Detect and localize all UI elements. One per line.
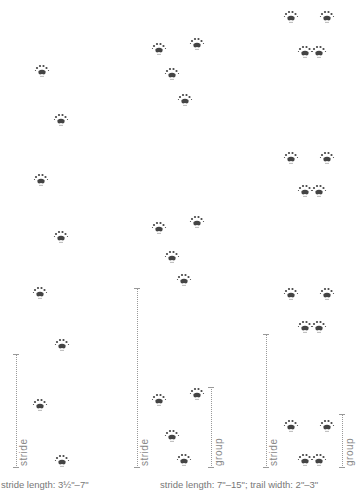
- paw-print-icon: [318, 287, 336, 301]
- group-label: group: [344, 438, 355, 466]
- stride-label: stride: [139, 439, 150, 466]
- paw-print-icon: [150, 221, 168, 235]
- stride-scale: stride: [133, 288, 143, 468]
- caption-right: stride length: 7"–15"; trail width: 2"–3…: [160, 479, 318, 490]
- group-scale: group: [338, 414, 348, 468]
- paw-print-icon: [163, 429, 181, 443]
- scale-cap: [208, 387, 214, 388]
- paw-print-icon: [282, 151, 300, 165]
- scale-cap: [13, 354, 19, 355]
- paw-print-icon: [310, 453, 328, 467]
- paw-print-icon: [175, 453, 193, 467]
- scale-cap: [339, 414, 345, 415]
- paw-print-icon: [310, 320, 328, 334]
- stride-label: stride: [268, 439, 279, 466]
- paw-print-icon: [32, 173, 50, 187]
- paw-print-icon: [318, 10, 336, 24]
- paw-print-icon: [318, 151, 336, 165]
- paw-print-icon: [53, 338, 71, 352]
- scale-cap: [13, 467, 19, 468]
- scale-cap: [134, 288, 140, 289]
- paw-print-icon: [318, 419, 336, 433]
- group-label: group: [213, 438, 224, 466]
- paw-print-icon: [52, 230, 70, 244]
- paw-print-icon: [163, 67, 181, 81]
- paw-print-icon: [188, 37, 206, 51]
- paw-print-icon: [33, 64, 51, 78]
- scale-line: [342, 414, 343, 468]
- paw-print-icon: [31, 398, 49, 412]
- stride-scale: stride: [262, 334, 272, 468]
- paw-print-icon: [282, 419, 300, 433]
- paw-print-icon: [188, 387, 206, 401]
- stride-scale: stride: [12, 354, 22, 468]
- paw-print-icon: [310, 45, 328, 59]
- paw-print-icon: [188, 215, 206, 229]
- paw-print-icon: [175, 273, 193, 287]
- paw-print-icon: [31, 286, 49, 300]
- scale-line: [266, 334, 267, 468]
- paw-print-icon: [282, 10, 300, 24]
- scale-cap: [134, 467, 140, 468]
- paw-print-icon: [52, 113, 70, 127]
- scale-cap: [339, 467, 345, 468]
- paw-print-icon: [150, 42, 168, 56]
- scale-line: [137, 288, 138, 468]
- scale-cap: [208, 467, 214, 468]
- paw-print-icon: [53, 454, 71, 468]
- paw-print-icon: [176, 93, 194, 107]
- caption-left: stride length: 3½"–7": [1, 479, 89, 490]
- paw-print-icon: [163, 250, 181, 264]
- scale-line: [211, 387, 212, 468]
- scale-line: [16, 354, 17, 468]
- scale-cap: [263, 334, 269, 335]
- group-scale: group: [207, 387, 217, 468]
- paw-print-icon: [310, 184, 328, 198]
- paw-print-icon: [150, 393, 168, 407]
- stride-label: stride: [18, 439, 29, 466]
- scale-cap: [263, 467, 269, 468]
- paw-print-icon: [282, 287, 300, 301]
